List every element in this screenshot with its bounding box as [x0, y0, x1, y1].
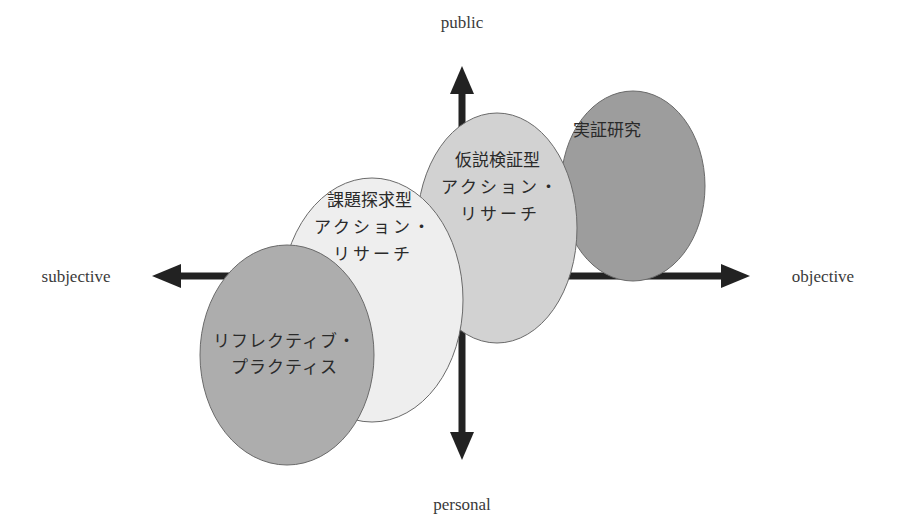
bubble-empirical-label: 実証研究	[573, 120, 641, 140]
bubble-hypothesis-line2: アクション・	[441, 177, 560, 197]
arrow-up-icon	[450, 66, 474, 94]
axis-label-subjective: subjective	[42, 267, 111, 286]
bubble-reflective-line2: プラクティス	[231, 357, 338, 377]
bubble-hypothesis-line3: リサーチ	[460, 204, 540, 224]
bubble-exploratory-line3: リサーチ	[333, 244, 413, 264]
quadrant-diagram: 実証研究 仮説検証型 アクション・ リサーチ 課題探求型 アクション・ リサーチ…	[0, 0, 898, 521]
bubble-reflective	[200, 245, 374, 465]
arrow-right-icon	[721, 264, 750, 288]
bubble-exploratory-line2: アクション・	[314, 217, 433, 237]
axis-label-personal: personal	[433, 495, 491, 514]
bubble-exploratory-line1: 課題探求型	[327, 190, 412, 210]
axis-label-public: public	[441, 13, 484, 32]
axis-label-objective: objective	[792, 267, 854, 286]
arrow-down-icon	[450, 432, 474, 460]
bubble-reflective-line1: リフレクティブ・	[213, 331, 356, 351]
arrow-left-icon	[152, 264, 181, 288]
bubble-hypothesis-line1: 仮説検証型	[455, 150, 540, 170]
